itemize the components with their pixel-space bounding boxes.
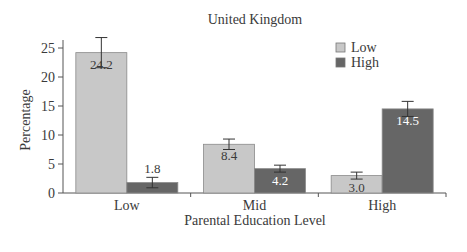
bar-value-label: 24.2 (90, 57, 113, 72)
y-tick-label: 25 (41, 41, 55, 56)
chart-title: United Kingdom (208, 12, 303, 27)
x-tick-label: High (368, 198, 396, 213)
bars: 24.21.88.44.23.014.5 (76, 38, 433, 195)
y-tick-label: 15 (41, 99, 55, 114)
bar (76, 53, 127, 193)
x-axis-label: Parental Education Level (184, 213, 326, 228)
bar-value-label: 8.4 (221, 148, 238, 163)
bar-value-label: 4.2 (272, 173, 288, 188)
legend-label: Low (351, 40, 378, 55)
y-tick-label: 0 (48, 186, 55, 201)
y-tick-label: 10 (41, 128, 55, 143)
x-axis: LowMidHigh (63, 193, 446, 213)
y-axis: 0510152025 (41, 40, 63, 201)
legend-swatch (336, 43, 345, 52)
legend-label: High (351, 55, 379, 70)
legend-swatch (336, 58, 345, 67)
bar-value-label: 1.8 (144, 161, 160, 176)
bar-value-label: 14.5 (396, 113, 419, 128)
y-axis-label: Percentage (18, 89, 33, 150)
legend: LowHigh (336, 40, 379, 70)
x-tick-label: Low (114, 198, 141, 213)
bar-value-label: 3.0 (349, 180, 365, 195)
y-tick-label: 5 (48, 157, 55, 172)
x-tick-label: Mid (243, 198, 266, 213)
y-tick-label: 20 (41, 70, 55, 85)
bar-chart: United Kingdom 0510152025 Percentage Low… (0, 0, 467, 252)
